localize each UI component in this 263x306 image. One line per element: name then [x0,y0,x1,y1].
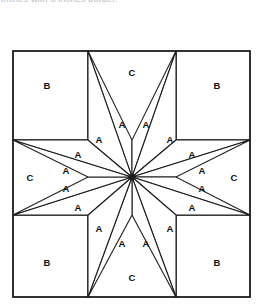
piece-label-a-10: A [199,183,206,194]
piece-label-a-7: A [63,165,70,176]
piece-label-a-3: A [96,134,103,145]
piece-label-a-12: A [189,202,196,213]
piece-label-c-left: C [27,172,34,183]
piece-label-a-5: A [75,149,82,160]
piece-label-c-top: C [129,67,136,78]
piece-label-a-11: A [75,202,82,213]
piece-label-c-right: C [231,172,238,183]
piece-b-bottom-left [13,215,88,297]
piece-label-b-bottom-left: B [44,257,51,268]
piece-b-top-right [176,51,250,140]
piece-label-a-16: A [143,238,150,249]
center-hub [129,174,135,180]
piece-label-a-15: A [119,238,126,249]
piece-label-b-top-left: B [44,80,51,91]
piece-label-a-6: A [189,149,196,160]
piece-label-a-2: A [143,119,150,130]
piece-label-a-4: A [167,134,174,145]
piece-label-a-13: A [96,223,103,234]
piece-b-top-left [13,51,88,140]
piece-label-c-bottom: C [129,272,136,283]
piece-label-a-14: A [167,223,174,234]
piece-label-b-bottom-right: B [214,257,221,268]
piece-label-a-1: A [119,119,126,130]
quilt-block-diagram: CCCCBBBBAAAAAAAAAAAAAAAA [0,0,263,306]
piece-label-a-8: A [199,165,206,176]
piece-label-b-top-right: B [214,80,221,91]
piece-label-a-9: A [63,183,70,194]
diagram-page: inches with 8 inches border. [0,0,263,306]
